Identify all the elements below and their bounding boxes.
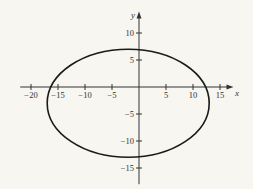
x-tick-label: −20 [24, 90, 37, 100]
x-tick-label: −5 [107, 90, 116, 100]
y-tick-label: 10 [126, 28, 135, 38]
x-tick-label: −10 [78, 90, 91, 100]
chart: −20−15−10−551015105−5−10−15 x y [0, 0, 253, 189]
x-axis-label: x [234, 88, 239, 98]
x-tick-label: 15 [216, 90, 225, 100]
y-tick-label: −5 [125, 109, 134, 119]
y-axis-arrow-icon [137, 11, 142, 18]
x-tick-label: 5 [164, 90, 168, 100]
x-tick-label: −15 [51, 90, 64, 100]
plot-area: −20−15−10−551015105−5−10−15 x y [0, 0, 253, 189]
x-axis-arrow-icon [227, 85, 234, 90]
y-tick-label: −15 [121, 163, 134, 173]
y-tick-label: −10 [121, 136, 134, 146]
y-axis-label: y [130, 10, 135, 20]
y-tick-label: 5 [130, 55, 134, 65]
x-tick-label: 10 [189, 90, 198, 100]
